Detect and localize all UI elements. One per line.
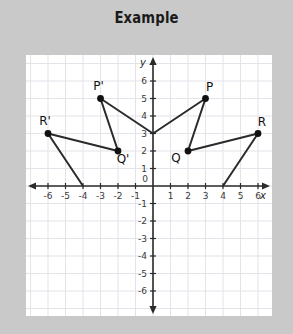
y-tick-label: 5 bbox=[141, 94, 147, 104]
x-tick-label: 3 bbox=[203, 191, 209, 201]
y-tick-label: 2 bbox=[141, 146, 147, 156]
data-point bbox=[97, 95, 104, 102]
data-point bbox=[202, 95, 209, 102]
y-tick-label: 3 bbox=[141, 129, 147, 139]
x-tick-label: -5 bbox=[61, 191, 70, 201]
y-tick-label: -6 bbox=[138, 286, 147, 296]
x-tick-label: -4 bbox=[79, 191, 88, 201]
x-tick-label: 5 bbox=[238, 191, 244, 201]
x-tick-label: 2 bbox=[185, 191, 191, 201]
axes bbox=[28, 57, 270, 314]
point-label: R bbox=[258, 115, 266, 129]
y-tick-label: -3 bbox=[138, 234, 147, 244]
point-label: P' bbox=[93, 79, 104, 93]
example-figure: Example -6-5-4-3-2-1123456-6-5-4-3-2-112… bbox=[0, 0, 293, 334]
x-tick-label: 1 bbox=[168, 191, 174, 201]
data-point bbox=[185, 148, 192, 155]
y-tick-label: -5 bbox=[138, 269, 147, 279]
origin-label: 0 bbox=[142, 174, 148, 184]
x-tick-label: -2 bbox=[114, 191, 123, 201]
y-axis-label: y bbox=[139, 57, 147, 68]
data-point bbox=[255, 130, 262, 137]
point-label: Q bbox=[171, 151, 180, 165]
point-label: P bbox=[206, 80, 213, 94]
y-tick-label: 1 bbox=[141, 164, 147, 174]
x-tick-label: -3 bbox=[96, 191, 105, 201]
y-tick-label: -2 bbox=[138, 216, 147, 226]
coordinate-plane-plot: -6-5-4-3-2-1123456-6-5-4-3-2-11234560 P'… bbox=[26, 55, 272, 316]
y-tick-label: -4 bbox=[138, 251, 147, 261]
data-point bbox=[45, 130, 52, 137]
figure-title-band: Example bbox=[0, 0, 293, 36]
y-tick-label: 4 bbox=[141, 111, 147, 121]
y-tick-label: -1 bbox=[138, 199, 147, 209]
page-title: Example bbox=[114, 9, 178, 27]
x-tick-label: 4 bbox=[220, 191, 226, 201]
point-label: Q' bbox=[117, 152, 130, 166]
x-axis-label: x bbox=[259, 190, 266, 201]
x-tick-label: -6 bbox=[44, 191, 53, 201]
point-label: R' bbox=[39, 114, 51, 128]
y-tick-label: 6 bbox=[141, 76, 147, 86]
coordinate-plane-svg: -6-5-4-3-2-1123456-6-5-4-3-2-11234560 P'… bbox=[26, 55, 272, 316]
